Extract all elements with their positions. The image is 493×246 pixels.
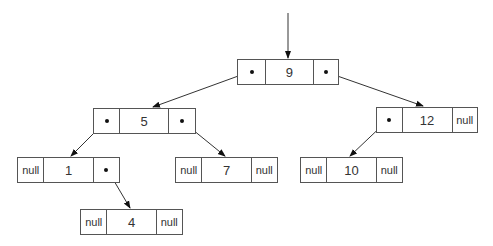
node-value: 9 bbox=[265, 60, 312, 84]
right-pointer-cell: null bbox=[452, 108, 478, 132]
tree-node-12: 12 null bbox=[376, 107, 478, 133]
tree-node-9: 9 bbox=[237, 59, 339, 85]
node-value: 1 bbox=[43, 158, 92, 182]
left-pointer-cell: null bbox=[18, 158, 43, 182]
left-pointer-cell bbox=[238, 60, 265, 84]
right-pointer-cell: null bbox=[251, 158, 277, 182]
pointer-dot-icon bbox=[387, 118, 391, 122]
pointer-dot-icon bbox=[324, 70, 328, 74]
right-pointer-cell: null bbox=[156, 210, 182, 234]
left-pointer-cell: null bbox=[81, 210, 106, 234]
right-pointer-cell bbox=[313, 60, 339, 84]
right-pointer-cell bbox=[168, 109, 195, 133]
pointer-dot-icon bbox=[180, 119, 184, 123]
tree-node-5: 5 bbox=[93, 108, 196, 134]
left-pointer-cell: null bbox=[301, 158, 326, 182]
left-pointer-cell bbox=[377, 108, 402, 132]
pointer-dot-icon bbox=[104, 168, 108, 172]
binary-tree-diagram: 9 5 12 null null 1 null 7 null null 10 n… bbox=[0, 0, 493, 246]
right-pointer-cell bbox=[93, 158, 119, 182]
node-value: 4 bbox=[106, 210, 155, 234]
tree-node-1: null 1 bbox=[17, 157, 120, 183]
edge-arrow-n9-right-to-n12 bbox=[326, 72, 423, 106]
pointer-dot-icon bbox=[105, 119, 109, 123]
right-pointer-cell: null bbox=[376, 158, 402, 182]
left-pointer-cell bbox=[94, 109, 119, 133]
left-pointer-cell: null bbox=[176, 158, 201, 182]
node-value: 12 bbox=[402, 108, 452, 132]
node-value: 7 bbox=[201, 158, 250, 182]
tree-node-4: null 4 null bbox=[80, 209, 183, 235]
node-value: 5 bbox=[119, 109, 167, 133]
tree-node-7: null 7 null bbox=[175, 157, 278, 183]
tree-node-10: null 10 null bbox=[300, 157, 403, 183]
node-value: 10 bbox=[326, 158, 375, 182]
pointer-dot-icon bbox=[250, 70, 254, 74]
